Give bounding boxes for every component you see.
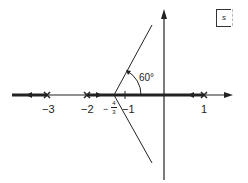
centroid-numerator: 4 [111,100,117,106]
locus-arrow-right-icon [96,92,102,98]
s-plane-label: s [216,9,231,27]
centroid-sign: − [103,105,108,114]
real-axis-arrow-icon [224,92,233,98]
locus-arrow-left-near-1-icon [188,92,194,98]
asymptote-upper [114,25,152,95]
tick-label-minus-2: −2 [81,104,94,115]
root-locus-plot [0,0,248,183]
tick-label-minus-3: −3 [42,104,55,115]
angle-label: 60° [139,73,154,83]
imaginary-axis-arrow-icon [161,9,167,19]
centroid-fraction-bar [111,107,117,108]
tick-label-1: 1 [201,104,207,115]
centroid-denominator: 3 [111,109,117,115]
locus-arrow-left-icon [26,92,32,98]
tick-label-minus-1: −1 [122,104,135,115]
s-plane-box-edge [231,9,233,26]
